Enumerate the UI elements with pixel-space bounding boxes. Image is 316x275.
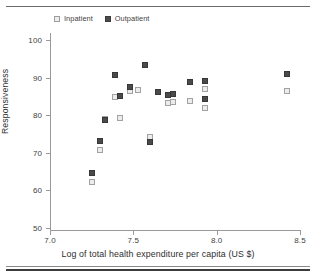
y-tick-label: 50 [18, 224, 42, 233]
bottom-divider-thick [6, 269, 310, 271]
data-point-outpatient [284, 71, 290, 77]
data-point-inpatient [89, 179, 95, 185]
data-point-outpatient [142, 62, 148, 68]
x-tick-mark [217, 231, 218, 235]
data-point-outpatient [202, 78, 208, 84]
x-tick-mark [300, 231, 301, 235]
figure-container: Inpatient Outpatient 5060708090100 7.07.… [0, 0, 316, 275]
x-tick-label: 7.5 [113, 236, 153, 245]
data-point-outpatient [97, 138, 103, 144]
x-axis-line [50, 230, 301, 231]
data-point-outpatient [170, 91, 176, 97]
data-point-inpatient [117, 115, 123, 121]
data-point-outpatient [202, 96, 208, 102]
data-point-outpatient [127, 84, 133, 90]
x-axis-title: Log of total health expenditure per capi… [0, 249, 316, 259]
y-tick-label: 90 [18, 73, 42, 82]
y-tick-label: 70 [18, 148, 42, 157]
legend-label-inpatient: Inpatient [64, 14, 93, 23]
x-tick-label: 8.0 [197, 236, 237, 245]
x-tick-mark [50, 231, 51, 235]
y-tick-label: 60 [18, 186, 42, 195]
legend-entry-inpatient: Inpatient [54, 14, 93, 23]
y-tick-label: 80 [18, 111, 42, 120]
plot-area [50, 38, 300, 230]
data-point-inpatient [187, 98, 193, 104]
data-point-outpatient [102, 117, 108, 123]
data-point-outpatient [147, 139, 153, 145]
data-point-inpatient [135, 87, 141, 93]
data-point-inpatient [170, 99, 176, 105]
legend-label-outpatient: Outpatient [115, 14, 150, 23]
bottom-divider-thin [6, 266, 310, 267]
filled-square-icon [105, 16, 111, 22]
y-axis-title: Responsiveness [0, 69, 10, 134]
data-point-outpatient [117, 93, 123, 99]
data-point-inpatient [97, 147, 103, 153]
x-tick-mark [133, 231, 134, 235]
chart-legend: Inpatient Outpatient [54, 12, 149, 25]
x-tick-label: 7.0 [30, 236, 70, 245]
open-square-icon [54, 16, 60, 22]
top-divider [6, 6, 310, 7]
x-tick-label: 8.5 [280, 236, 316, 245]
y-tick-label: 100 [18, 36, 42, 45]
legend-entry-outpatient: Outpatient [105, 14, 150, 23]
data-point-outpatient [187, 79, 193, 85]
data-point-outpatient [155, 89, 161, 95]
data-point-inpatient [284, 88, 290, 94]
data-point-outpatient [112, 72, 118, 78]
data-point-inpatient [202, 86, 208, 92]
data-point-inpatient [202, 105, 208, 111]
data-point-outpatient [89, 170, 95, 176]
